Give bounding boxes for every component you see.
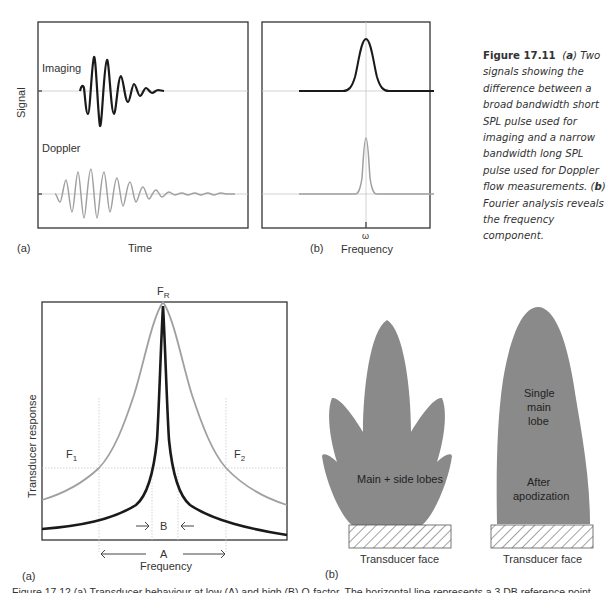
bandwidth-b-left-arrow	[136, 522, 149, 530]
fr-label: FR	[157, 285, 170, 300]
fig17-11b-xlabel: Frequency	[341, 243, 393, 255]
bandwidth-b-right-arrow	[181, 522, 194, 530]
f1-label: F1	[66, 448, 77, 463]
fig17-12a-xlabel: Frequency	[140, 560, 192, 572]
fig17-11a-plot	[38, 22, 248, 228]
after-label: After	[527, 476, 550, 488]
fig17-11b-plot	[262, 22, 434, 228]
fig17-12b-diagram	[322, 307, 593, 548]
caption-part-a-text: Two signals showing the difference betwe…	[483, 50, 600, 192]
caption-part-b-marker: b	[594, 181, 601, 192]
fig17-12a-panel-label: (a)	[22, 570, 35, 582]
doppler-label: Doppler	[42, 142, 81, 154]
left-transducer-face	[349, 525, 451, 548]
bandwidth-a-left-arrow	[101, 550, 146, 558]
high-q-response-curve	[42, 306, 287, 535]
figure-17-11-caption: Figure 17.11 (a) Two signals showing the…	[483, 48, 611, 245]
caption-part-b-text: Fourier analysis reveals the frequency c…	[483, 198, 604, 242]
fig17-11b-panel-label: (b)	[310, 242, 323, 254]
right-transducer-face	[491, 525, 593, 548]
main-and-side-lobes-shape	[322, 320, 452, 525]
bandwidth-a-label: A	[160, 548, 167, 560]
apodization-label: apodization	[513, 490, 569, 502]
doppler-spectrum-curve	[299, 138, 434, 194]
caption-part-a-marker: a	[566, 50, 573, 61]
lobe-label: lobe	[528, 415, 549, 427]
fig17-11a-xlabel: Time	[128, 242, 152, 254]
fig17-11a-panel-label: (a)	[17, 242, 30, 254]
bandwidth-b-label: B	[160, 520, 167, 532]
fig17-12a-ylabel: Transducer response	[26, 394, 38, 498]
f2-label: F2	[234, 448, 245, 463]
right-transducer-face-label: Transducer face	[503, 553, 582, 565]
imaging-spectrum-curve	[299, 39, 434, 91]
main-side-lobes-label: Main + side lobes	[357, 473, 443, 485]
omega-tick-label: ω	[362, 231, 369, 241]
imaging-label: Imaging	[42, 62, 81, 74]
left-transducer-face-label: Transducer face	[360, 553, 439, 565]
bandwidth-a-right-arrow	[183, 550, 225, 558]
single-label: Single	[524, 387, 555, 399]
caption-figure-number: Figure 17.11	[483, 50, 556, 61]
imaging-pulse-curve	[80, 57, 164, 126]
fig17-11a-ylabel: Signal	[15, 87, 27, 118]
doppler-pulse-curve	[55, 169, 235, 218]
main-label: main	[527, 401, 551, 413]
fig17-12b-panel-label: (b)	[325, 568, 338, 580]
figure-17-12-caption-partial: Figure 17.12 (a) Transducer behaviour at…	[0, 586, 611, 593]
